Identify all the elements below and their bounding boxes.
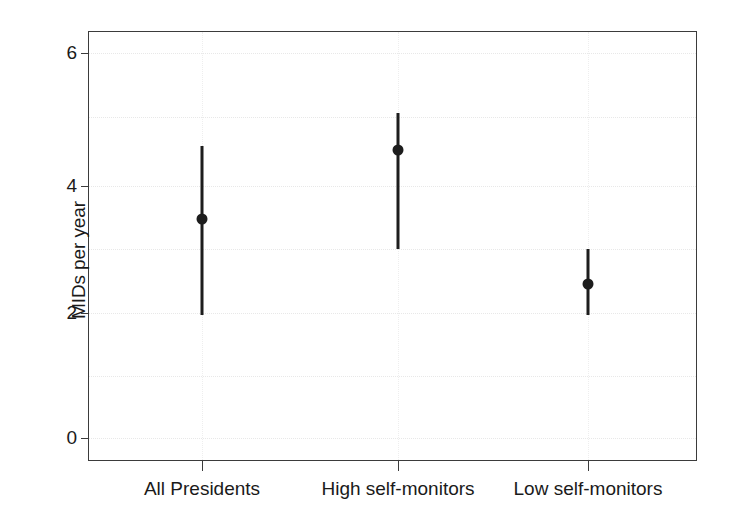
errorbar-point-low-self-monitors [583, 279, 594, 290]
x-tick-mark-all-presidents [202, 460, 203, 471]
errorbar-line-high-self-monitors [397, 113, 400, 249]
errorbar-line-all-presidents [201, 146, 204, 315]
y-tick-mark-0 [81, 438, 89, 439]
y-tick-label-2: 2 [66, 302, 77, 324]
y-tick-mark-2 [81, 313, 89, 314]
y-tick-mark-4 [81, 186, 89, 187]
x-tick-label-high-self-monitors: High self-monitors [321, 478, 474, 500]
y-tick-label-0: 0 [66, 427, 77, 449]
gridline-y-6 [89, 53, 696, 54]
y-tick-label-4: 4 [66, 175, 77, 197]
gridline-y-2 [89, 313, 696, 314]
plot-area: MIDs per year 6 4 2 0 All Presidents Hig… [88, 31, 697, 461]
x-tick-mark-high-self-monitors [398, 460, 399, 471]
gridline-y-3 [89, 249, 696, 250]
gridline-y-1 [89, 376, 696, 377]
errorbar-point-all-presidents [197, 214, 208, 225]
errorbar-point-high-self-monitors [393, 145, 404, 156]
gridline-x-2 [588, 32, 589, 460]
y-tick-label-6: 6 [66, 42, 77, 64]
gridline-y-0 [89, 438, 696, 439]
chart-figure: MIDs per year 6 4 2 0 All Presidents Hig… [0, 0, 733, 517]
gridline-y-5 [89, 117, 696, 118]
y-tick-mark-6 [81, 53, 89, 54]
gridline-y-4 [89, 186, 696, 187]
x-tick-label-all-presidents: All Presidents [144, 478, 260, 500]
x-tick-mark-low-self-monitors [588, 460, 589, 471]
x-tick-label-low-self-monitors: Low self-monitors [514, 478, 663, 500]
